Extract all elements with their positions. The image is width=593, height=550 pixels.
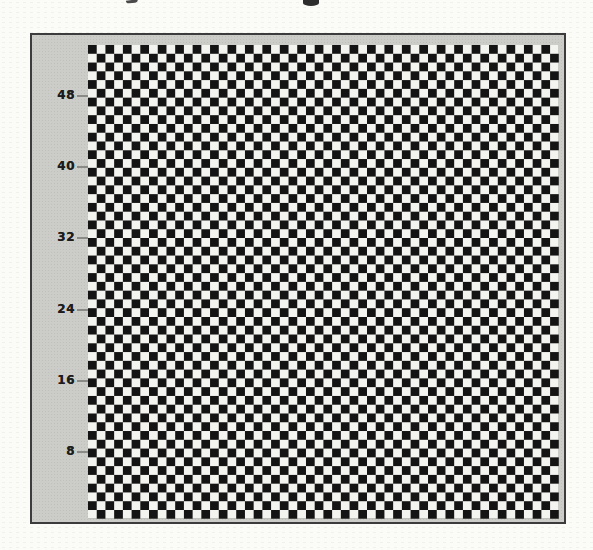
y-tick-mark bbox=[77, 380, 88, 382]
y-tick-label: 16 bbox=[57, 373, 75, 387]
scan-artifact-speck bbox=[303, 0, 319, 6]
y-tick-mark bbox=[77, 309, 88, 311]
figure-frame: 48403224168 bbox=[30, 33, 566, 524]
y-tick-mark bbox=[77, 451, 88, 453]
y-tick-label: 24 bbox=[57, 302, 75, 316]
y-tick-mark bbox=[77, 166, 88, 168]
y-tick-mark bbox=[77, 237, 88, 239]
y-tick-label: 48 bbox=[57, 88, 75, 102]
y-axis: 48403224168 bbox=[32, 35, 88, 522]
y-tick-label: 40 bbox=[57, 159, 75, 173]
y-tick-label: 8 bbox=[66, 444, 75, 458]
scan-artifact-speck bbox=[126, 0, 138, 4]
y-tick-label: 32 bbox=[57, 230, 75, 244]
checkerboard bbox=[88, 45, 559, 519]
y-tick-mark bbox=[77, 95, 88, 97]
